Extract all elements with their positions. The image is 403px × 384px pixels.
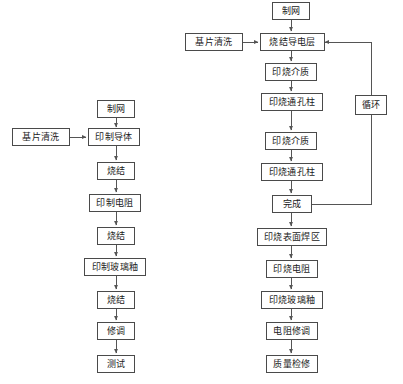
node-right-yinshaotongkongzhu-2[interactable]: 印烧通孔柱 <box>261 163 323 181</box>
flowchart-edges <box>0 0 403 384</box>
node-left-shaojie-1[interactable]: 烧结 <box>97 162 135 180</box>
node-right-zhiliangjianxiu[interactable]: 质量检修 <box>266 355 318 373</box>
node-left-yinzhidianzu[interactable]: 印制电阻 <box>89 194 141 212</box>
node-right-yinshaodianzu[interactable]: 印烧电阻 <box>266 260 318 278</box>
flowchart-canvas: 制网 基片清洗 印制导体 烧结 印制电阻 烧结 印制玻璃釉 烧结 修调 测试 制… <box>0 0 403 384</box>
node-right-jipianqingxi[interactable]: 基片清洗 <box>185 33 243 51</box>
edge-r-feedback-loop <box>312 115 371 204</box>
node-left-zhiwang[interactable]: 制网 <box>97 100 135 118</box>
node-right-yinshaojiezhi-1[interactable]: 印烧介质 <box>265 63 317 81</box>
node-right-dianzuxiutiao[interactable]: 电阻修调 <box>266 322 318 340</box>
node-right-xunhuan[interactable]: 循环 <box>355 95 387 115</box>
node-right-yinshaobiaomianhanqu[interactable]: 印烧表面焊区 <box>257 228 327 246</box>
edge-r-feedback-loop-upper <box>325 42 371 95</box>
node-right-zhiwang[interactable]: 制网 <box>272 2 310 20</box>
node-left-ceshi[interactable]: 测试 <box>97 355 135 373</box>
node-left-shaojie-2[interactable]: 烧结 <box>97 227 135 245</box>
node-right-shaojiedaodianceng[interactable]: 烧结导电层 <box>260 33 325 51</box>
node-left-yinzhidaoti[interactable]: 印制导体 <box>88 128 140 146</box>
node-right-yinshaojiezhi-2[interactable]: 印烧介质 <box>265 132 317 150</box>
node-left-xiutiao[interactable]: 修调 <box>97 322 135 340</box>
node-left-shaojie-3[interactable]: 烧结 <box>97 291 135 309</box>
node-left-jipianqingxi[interactable]: 基片清洗 <box>12 128 70 146</box>
node-right-yinshaotongkongzhu-1[interactable]: 印烧通孔柱 <box>261 93 323 111</box>
node-right-wancheng[interactable]: 完成 <box>272 195 312 213</box>
node-left-yinzhiboliyou[interactable]: 印制玻璃釉 <box>84 258 146 276</box>
node-right-yinshaoboliyou[interactable]: 印烧玻璃釉 <box>261 291 323 309</box>
